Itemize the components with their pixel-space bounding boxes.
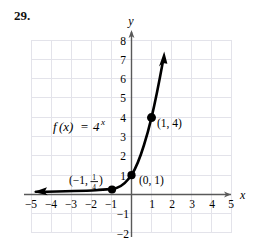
- y-tick-neg1: −1: [117, 208, 129, 220]
- y-tick-1: 1: [120, 170, 126, 182]
- function-label-base: 4: [93, 119, 100, 134]
- y-tick-8: 8: [120, 35, 126, 47]
- y-tick-7: 7: [120, 54, 126, 66]
- function-label: f (x) = 4 x: [53, 117, 105, 134]
- x-tick-neg1: −1: [105, 198, 117, 210]
- x-tick-neg4: −4: [45, 198, 57, 210]
- x-tick-1: 1: [149, 198, 155, 210]
- point-marker-neg1-quarter: [108, 185, 116, 193]
- point-marker-0-1: [127, 171, 135, 179]
- y-tick-labels: 8 7 6 5 4 3 2 1 −1 −2: [117, 35, 129, 240]
- x-tick-neg3: −3: [65, 198, 77, 210]
- x-tick-neg2: −2: [85, 198, 97, 210]
- y-tick-2: 2: [120, 150, 126, 162]
- point-label-neg1-open: (−1,: [69, 174, 88, 187]
- y-tick-5: 5: [120, 92, 126, 104]
- point-label-0-1: (0, 1): [139, 174, 164, 187]
- x-tick-4: 4: [209, 198, 215, 210]
- function-label-arg: (x): [59, 119, 73, 134]
- y-tick-neg2: −2: [117, 228, 129, 240]
- y-tick-4: 4: [120, 112, 126, 124]
- function-label-exponent: x: [100, 117, 105, 127]
- function-label-equals: =: [80, 119, 89, 134]
- y-axis: [129, 30, 135, 237]
- point-marker-1-4: [147, 113, 156, 122]
- x-tick-5: 5: [228, 198, 234, 210]
- y-tick-6: 6: [120, 73, 126, 85]
- x-axis-label: x: [239, 188, 246, 202]
- x-tick-2: 2: [169, 198, 175, 210]
- y-axis-label: y: [127, 14, 134, 28]
- point-label-1-4: (1, 4): [157, 117, 182, 130]
- graph-figure: y x 8 7 6 5 4 3 2 1 −1 −2 −5 −4 −3 −2 −1…: [0, 0, 260, 251]
- x-tick-labels: −5 −4 −3 −2 −1 1 2 3 4 5: [25, 198, 234, 210]
- point-label-fraction-denominator: 4: [92, 183, 96, 192]
- coordinate-plane-svg: y x 8 7 6 5 4 3 2 1 −1 −2 −5 −4 −3 −2 −1…: [0, 0, 260, 251]
- point-label-neg1-close: ): [99, 174, 103, 187]
- y-tick-3: 3: [120, 131, 126, 143]
- x-tick-3: 3: [189, 198, 195, 210]
- x-tick-neg5: −5: [25, 198, 37, 210]
- point-label-fraction-numerator: 1: [92, 173, 96, 182]
